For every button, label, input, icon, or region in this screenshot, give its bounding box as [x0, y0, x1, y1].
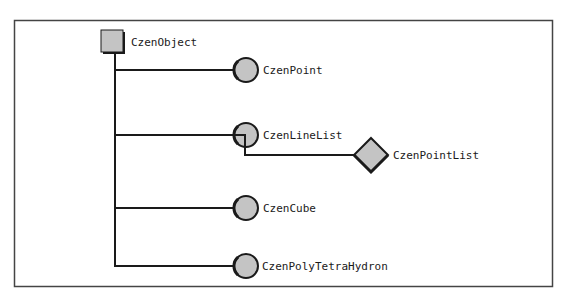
node-label: CzenPoint: [263, 64, 323, 77]
class-hierarchy-diagram: CzenObject CzenPoint CzenLineList CzenCu…: [0, 0, 563, 302]
node-label: CzenLineList: [263, 129, 342, 142]
square-node-icon: [101, 30, 123, 52]
node-label: CzenCube: [263, 202, 316, 215]
node-label: CzenObject: [131, 36, 197, 49]
node-label: CzenPointList: [393, 149, 479, 162]
node-label: CzenPolyTetraHydron: [262, 260, 388, 273]
